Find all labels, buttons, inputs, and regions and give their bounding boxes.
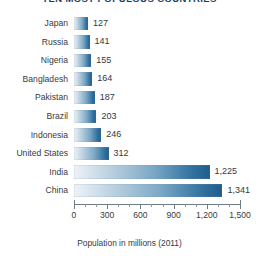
bar-track: 203 (74, 110, 259, 123)
bar (74, 91, 95, 104)
x-axis-major-tick (207, 204, 208, 209)
bar-value-label: 312 (109, 147, 129, 160)
bar-row: Pakistan187 (0, 88, 259, 107)
bar (74, 54, 91, 67)
category-label: Japan (0, 14, 68, 33)
category-label: Nigeria (0, 51, 68, 70)
x-axis-minor-tick (185, 204, 186, 207)
bar-value-label: 246 (101, 128, 121, 141)
x-axis-tick-label: 900 (166, 210, 180, 220)
bar (74, 72, 92, 85)
x-axis-major-tick (74, 204, 75, 209)
category-label: Indonesia (0, 126, 68, 145)
bar-track: 1,341 (74, 184, 259, 197)
category-label: India (0, 163, 68, 182)
bar-row: Nigeria155 (0, 51, 259, 70)
category-label: Bangladesh (0, 70, 68, 89)
x-axis-tick-label: 1,500 (229, 210, 251, 220)
bar-value-label: 187 (95, 91, 115, 104)
bar-row: India1,225 (0, 163, 259, 182)
x-axis-tick-label: 300 (100, 210, 114, 220)
bar (74, 165, 210, 178)
x-axis-tick-label: 0 (72, 210, 77, 220)
x-axis-tick-label: 600 (133, 210, 147, 220)
bar-track: 164 (74, 72, 259, 85)
bar-track: 312 (74, 147, 259, 160)
bar-track: 1,225 (74, 165, 259, 178)
bar-track: 141 (74, 35, 259, 48)
x-axis-minor-tick (151, 204, 152, 207)
bar-value-label: 141 (90, 35, 110, 48)
category-label: Brazil (0, 107, 68, 126)
bar-value-label: 127 (88, 17, 108, 30)
bar-chart: TEN MOST POPULOUS COUNTRIES Japan127Russ… (0, 0, 259, 256)
category-label: Russia (0, 33, 68, 52)
x-axis-minor-tick (163, 204, 164, 207)
bar-row: Indonesia246 (0, 126, 259, 145)
bar (74, 128, 101, 141)
x-axis-minor-tick (96, 204, 97, 207)
bar-track: 155 (74, 54, 259, 67)
bar (74, 184, 222, 197)
x-axis-title: Population in millions (2011) (0, 238, 259, 248)
bar-track: 187 (74, 91, 259, 104)
x-axis-minor-tick (129, 204, 130, 207)
bar-row: China1,341 (0, 181, 259, 200)
bar-row: Russia141 (0, 33, 259, 52)
bar-track: 246 (74, 128, 259, 141)
bar (74, 35, 90, 48)
bar-value-label: 164 (92, 72, 112, 85)
x-axis-major-tick (107, 204, 108, 209)
x-axis-minor-tick (85, 204, 86, 207)
bar-value-label: 203 (96, 110, 116, 123)
x-axis-minor-tick (196, 204, 197, 207)
bar (74, 110, 96, 123)
x-axis-major-tick (240, 204, 241, 209)
plot-area: Japan127Russia141Nigeria155Bangladesh164… (0, 14, 259, 204)
bar-track: 127 (74, 17, 259, 30)
chart-title: TEN MOST POPULOUS COUNTRIES (0, 0, 259, 3)
x-axis-tick-label: 1,200 (196, 210, 218, 220)
x-axis-minor-tick (229, 204, 230, 207)
bar (74, 17, 88, 30)
bar-row: Bangladesh164 (0, 70, 259, 89)
category-label: Pakistan (0, 88, 68, 107)
category-label: United States (0, 144, 68, 163)
x-axis-minor-tick (118, 204, 119, 207)
bar-value-label: 1,341 (222, 184, 250, 197)
x-axis-major-tick (140, 204, 141, 209)
bar-value-label: 1,225 (210, 165, 238, 178)
bar-row: Brazil203 (0, 107, 259, 126)
category-label: China (0, 181, 68, 200)
x-axis-line (74, 204, 240, 205)
bar (74, 147, 109, 160)
bar-row: Japan127 (0, 14, 259, 33)
bar-row: United States312 (0, 144, 259, 163)
x-axis-major-tick (174, 204, 175, 209)
bar-value-label: 155 (91, 54, 111, 67)
x-axis-minor-tick (218, 204, 219, 207)
